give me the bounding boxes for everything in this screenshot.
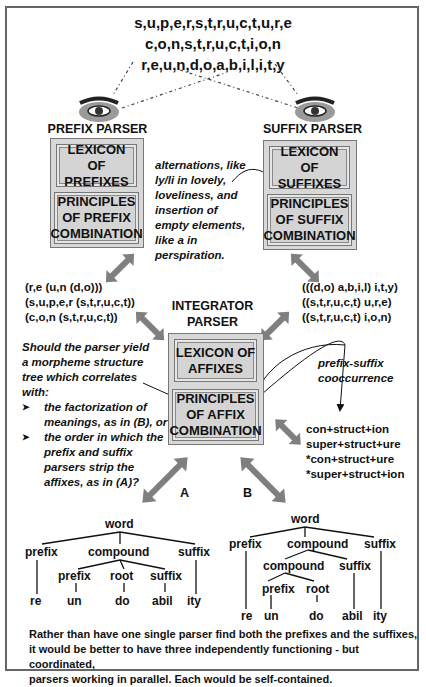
question-option-a: ➤ the order in which the prefix and suff… bbox=[44, 430, 179, 490]
prefix-parser-outputs: (r,e (u,n (d,o))) (s,u,p,e,r (s,t,r,u,c,… bbox=[25, 280, 135, 325]
prefix-parser-box: LEXICON OFPREFIXES PRINCIPLESOF PREFIXCO… bbox=[50, 138, 144, 248]
suffix-parser-title: SUFFIX PARSER bbox=[260, 122, 365, 136]
tree-a-lines bbox=[37, 532, 196, 594]
tree-a-label: A bbox=[180, 486, 189, 500]
integrator-parser-title: INTEGRATOR PARSER bbox=[160, 298, 265, 330]
bullet-icon: ➤ bbox=[22, 400, 30, 415]
combinations-list: con+struct+ion super+struct+ure *con+str… bbox=[306, 422, 404, 482]
eye-icon bbox=[293, 96, 337, 122]
input-word-construction: c,o,n,s,t,r,u,c,t,i,o,n bbox=[0, 34, 426, 54]
lexicon-of-affixes: LEXICON OFAFFIXES bbox=[174, 339, 257, 382]
input-word-superstructure: s,u,p,e,r,s,t,r,u,c,t,u,r,e bbox=[0, 13, 426, 33]
integrator-parser-box: LEXICON OFAFFIXES PRINCIPLESOF AFFIXCOMB… bbox=[168, 333, 264, 445]
alternations-note: alternations, like ly/li in lovely, love… bbox=[155, 158, 265, 263]
bullet-icon: ➤ bbox=[22, 430, 30, 445]
tree-b-label: B bbox=[243, 486, 252, 500]
eye-icon bbox=[77, 96, 121, 122]
principles-of-prefix-combination: PRINCIPLESOF PREFIXCOMBINATION bbox=[54, 192, 139, 244]
lexicon-of-prefixes: LEXICON OFPREFIXES bbox=[56, 144, 137, 187]
principles-of-suffix-combination: PRINCIPLESOF SUFFIXCOMBINATION bbox=[267, 194, 352, 246]
lexicon-of-suffixes: LEXICON OFSUFFIXES bbox=[269, 146, 350, 189]
suffix-parser-box: LEXICON OFSUFFIXES PRINCIPLESOF SUFFIXCO… bbox=[263, 140, 357, 250]
principles-of-affix-combination: PRINCIPLESOF AFFIXCOMBINATION bbox=[172, 389, 259, 441]
question-text: Should the parser yield a morpheme struc… bbox=[22, 340, 172, 400]
suffix-parser-outputs: (((d,o) a,b,i,l) i,t,y) ((s,t,r,u,c,t) u… bbox=[302, 280, 398, 325]
cooccurrence-note: prefix-suffix cooccurrence bbox=[318, 356, 393, 386]
prefix-parser-title: PREFIX PARSER bbox=[45, 122, 150, 136]
conclusion-text: Rather than have one single parser find … bbox=[29, 627, 419, 687]
question-option-b: ➤ the factorization of meanings, as in (… bbox=[44, 400, 179, 430]
input-word-reundoability: r,e,u,n,d,o,a,b,i,l,i,t,y bbox=[0, 55, 426, 75]
